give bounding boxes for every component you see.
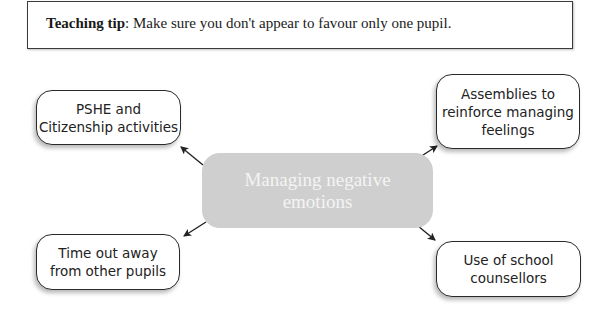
- arrow-to-timeout: [184, 222, 206, 236]
- node-pshe: PSHE and Citizenship activities: [36, 90, 181, 145]
- node-assemblies: Assemblies to reinforce managing feeling…: [436, 74, 580, 149]
- center-topic-label: Managing negative emotions: [244, 169, 390, 213]
- node-assemblies-label: Assemblies to reinforce managing feeling…: [442, 85, 574, 139]
- node-timeout: Time out away from other pupils: [36, 234, 180, 290]
- arrow-to-counsellors: [418, 226, 435, 240]
- node-pshe-label: PSHE and Citizenship activities: [39, 100, 178, 136]
- node-counsellors: Use of school counsellors: [436, 241, 581, 297]
- arrow-to-pshe: [181, 147, 203, 165]
- center-topic: Managing negative emotions: [202, 153, 433, 228]
- node-counsellors-label: Use of school counsellors: [463, 251, 553, 287]
- node-timeout-label: Time out away from other pupils: [50, 244, 166, 280]
